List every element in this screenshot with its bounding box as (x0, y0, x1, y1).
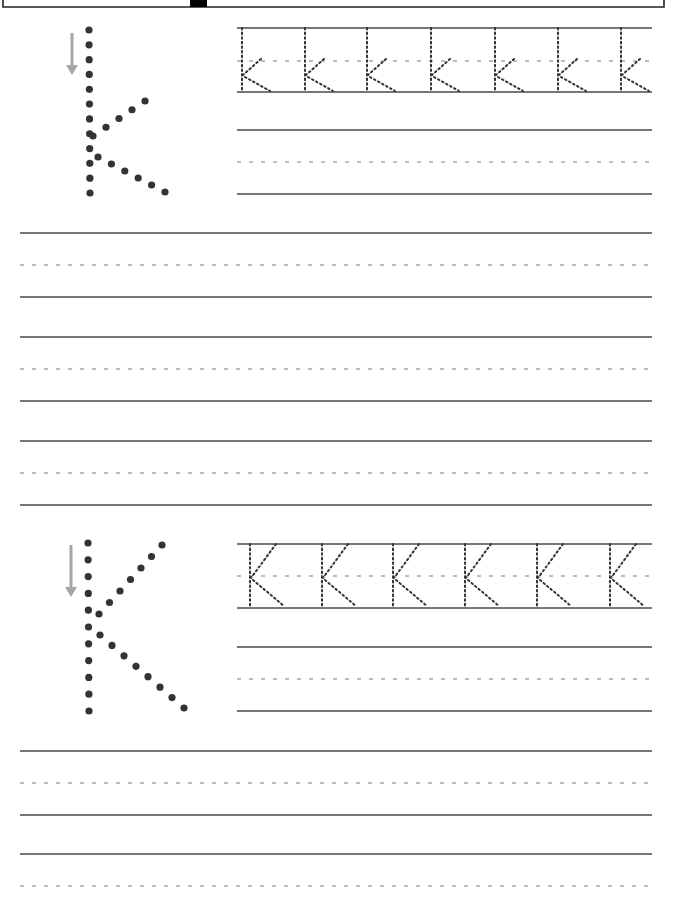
trace-letter-K (610, 544, 644, 608)
dot (115, 115, 122, 122)
trace-letter-K (250, 544, 284, 608)
arrow-head-icon (65, 587, 77, 597)
trace-leg (540, 580, 571, 606)
dot (85, 41, 92, 48)
trace-letter-k (367, 28, 395, 92)
stem-dots (84, 539, 92, 714)
trace-letter-k (242, 28, 270, 92)
dot (86, 56, 93, 63)
stem-dots (85, 26, 93, 196)
letter-sections (65, 26, 652, 714)
dot (85, 640, 92, 647)
trace-letter-k (431, 28, 459, 92)
trace-letter-K (465, 544, 499, 608)
trace-leg (370, 77, 395, 91)
trace-arm (394, 544, 419, 578)
dot (85, 674, 92, 681)
header-tab (190, 0, 207, 7)
dot (89, 132, 96, 139)
section-uppercase (65, 539, 652, 714)
dot (85, 607, 92, 614)
header-box (3, 0, 664, 7)
practice-row (20, 854, 652, 886)
leg-dots (96, 631, 187, 711)
dot (96, 631, 103, 638)
trace-leg (245, 77, 270, 91)
trace-leg (613, 580, 644, 606)
dot (86, 86, 93, 93)
dot (95, 610, 102, 617)
dot (85, 556, 92, 563)
practice-row-short (237, 647, 652, 711)
dot (86, 145, 93, 152)
trace-arm (251, 544, 276, 578)
arm-dots (95, 541, 165, 617)
arrow-head-icon (66, 65, 78, 75)
dot (86, 115, 93, 122)
dot (148, 181, 155, 188)
dot (137, 564, 144, 571)
dot (128, 106, 135, 113)
dot (84, 539, 91, 546)
trace-leg (308, 77, 333, 91)
dot (85, 590, 92, 597)
dot (102, 124, 109, 131)
dot (168, 694, 175, 701)
dot (116, 587, 123, 594)
dot (180, 704, 187, 711)
dot (127, 576, 134, 583)
dot (108, 160, 115, 167)
dot (85, 623, 92, 630)
trace-arm (306, 59, 324, 75)
trace-row-uppercase (237, 544, 652, 608)
trace-leg (468, 580, 499, 606)
trace-letter-K (393, 544, 427, 608)
dot (148, 553, 155, 560)
dot (135, 174, 142, 181)
dot (158, 541, 165, 548)
dot (108, 642, 115, 649)
dot (86, 100, 93, 107)
dot (85, 657, 92, 664)
dot (144, 673, 151, 680)
dot (85, 26, 92, 33)
dot (161, 188, 168, 195)
dot (121, 167, 128, 174)
practice-row (20, 233, 652, 297)
trace-leg (396, 580, 427, 606)
dot (86, 189, 93, 196)
dot (86, 175, 93, 182)
trace-leg (434, 77, 459, 91)
trace-arm (538, 544, 563, 578)
practice-row-short (237, 130, 652, 194)
trace-leg (498, 77, 523, 91)
dot (85, 573, 92, 580)
dot (132, 663, 139, 670)
trace-row-lowercase (237, 28, 652, 92)
dot (85, 707, 92, 714)
worksheet-canvas (0, 0, 674, 914)
model-letter-lowercase (66, 26, 169, 196)
trace-letter-k (495, 28, 523, 92)
practice-row (20, 441, 652, 505)
practice-row (20, 337, 652, 401)
arm-dots (89, 97, 148, 139)
dot (86, 71, 93, 78)
trace-leg (253, 580, 284, 606)
dot (86, 160, 93, 167)
trace-letter-K (322, 544, 356, 608)
dot (141, 97, 148, 104)
dot (156, 684, 163, 691)
dot (120, 652, 127, 659)
leg-dots (94, 153, 168, 195)
dot (94, 153, 101, 160)
trace-letter-k (558, 28, 586, 92)
trace-letter-K (537, 544, 571, 608)
trace-arm (323, 544, 348, 578)
trace-arm (611, 544, 636, 578)
trace-leg (624, 77, 649, 91)
trace-letter-k (621, 28, 649, 92)
dot (106, 599, 113, 606)
section-lowercase (66, 26, 652, 196)
practice-row (20, 751, 652, 815)
